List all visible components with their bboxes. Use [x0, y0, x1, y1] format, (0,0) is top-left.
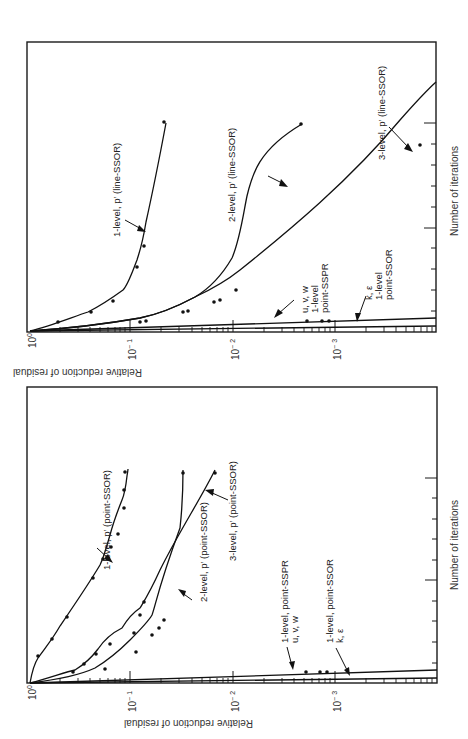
- top-curve-1-level-line-ssor: [30, 123, 166, 331]
- bottom-curve-1-level-point-ssor: [30, 469, 128, 683]
- top-label-uvw-method: point-SSPR: [319, 263, 330, 313]
- top-label-1-level-line-ssor: 1-level, p′ (line-SSOR): [111, 143, 122, 237]
- top-iteration-axis-ticks: [424, 123, 436, 311]
- bottom-label-2-level-point-ssor: 2-level, p′ (point-SSOR): [198, 502, 209, 602]
- bottom-curve-3-level-point-ssor: [30, 470, 215, 683]
- svg-text:100: 100: [26, 685, 38, 700]
- bottom-ylabel: Relative reduction of residual: [124, 718, 253, 729]
- top-label-3-level-line-ssor: 3-level, p′ (line-SSOR): [376, 66, 387, 160]
- top-ylabel: Relative reduction of residual: [13, 367, 142, 378]
- bottom-residual-tick-labels: 100 10− 1 10− 2 10− 3: [26, 685, 343, 712]
- svg-text:10− 1: 10− 1: [126, 691, 138, 712]
- bottom-xlabel: Number of iterations: [449, 500, 460, 590]
- svg-text:10− 2: 10− 2: [229, 339, 241, 360]
- top-panel: 1-level, p′ (line-SSOR) 2-level, p′ (lin…: [13, 42, 460, 378]
- bottom-residual-axis-ticks: [60, 671, 432, 683]
- top-label-k-eps-method: point-SSOR: [383, 249, 394, 300]
- bottom-label-k-eps: k, ε: [334, 628, 345, 643]
- svg-text:10− 2: 10− 2: [229, 691, 241, 712]
- bottom-iteration-axis-ticks: [425, 478, 437, 663]
- bottom-panel: 1-level, p′ (point-SSOR) 2-level, p′ (po…: [26, 387, 460, 729]
- svg-text:10− 3: 10− 3: [331, 691, 343, 712]
- bottom-label-3-level-point-ssor: 3-level, p′ (point-SSOR): [227, 461, 238, 561]
- top-xlabel: Number of iterations: [449, 146, 460, 236]
- bottom-label-1-level-point-ssor: 1-level, p′ (point-SSOR): [101, 470, 112, 570]
- svg-text:100: 100: [26, 333, 38, 348]
- svg-text:10− 3: 10− 3: [331, 339, 343, 360]
- figure-canvas: 1-level, p′ (line-SSOR) 2-level, p′ (lin…: [0, 0, 468, 739]
- svg-text:10− 1: 10− 1: [126, 339, 138, 360]
- bottom-label-uvw: u, v, w: [289, 616, 300, 643]
- top-residual-tick-labels: 100 10− 1 10− 2 10− 3: [26, 333, 343, 360]
- top-curve-2-level-line-ssor: [30, 124, 302, 331]
- top-label-2-level-line-ssor: 2-level, p′ (line-SSOR): [226, 128, 237, 222]
